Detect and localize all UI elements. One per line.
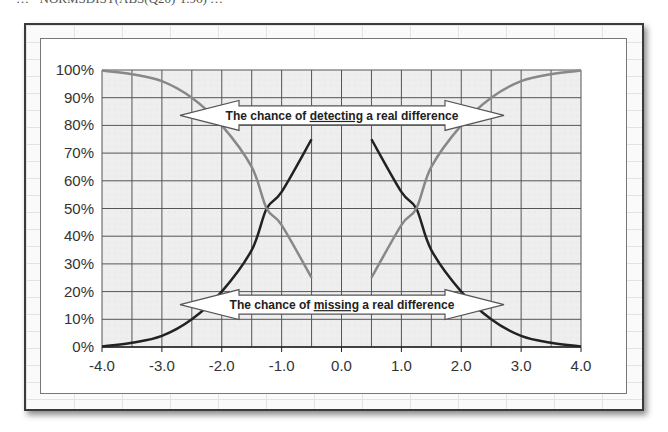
y-tick-label: 10% — [64, 310, 94, 327]
x-tick-label: 3.0 — [511, 357, 532, 374]
y-tick-label: 80% — [64, 116, 94, 133]
x-tick-label: -3.0 — [149, 357, 175, 374]
y-axis-labels: 0%10%20%30%40%50%60%70%80%90%100% — [56, 61, 94, 355]
y-tick-label: 20% — [64, 283, 94, 300]
annotation-text: The chance of detecting a real differenc… — [226, 109, 459, 123]
x-tick-label: 1.0 — [391, 357, 412, 374]
y-tick-label: 70% — [64, 144, 94, 161]
y-tick-label: 30% — [64, 255, 94, 272]
annotation-text: The chance of missing a real difference — [230, 298, 455, 312]
y-tick-label: 0% — [72, 338, 94, 355]
y-tick-label: 90% — [64, 89, 94, 106]
x-tick-label: 2.0 — [451, 357, 472, 374]
y-tick-label: 40% — [64, 227, 94, 244]
x-tick-label: -4.0 — [89, 357, 115, 374]
y-tick-label: 60% — [64, 172, 94, 189]
x-axis-labels: -4.0-3.0-2.0-1.00.01.02.03.04.0 — [89, 357, 591, 374]
power-curve-chart: 0%10%20%30%40%50%60%70%80%90%100% -4.0-3… — [0, 0, 668, 432]
y-tick-label: 50% — [64, 200, 94, 217]
x-tick-label: -2.0 — [209, 357, 235, 374]
y-tick-label: 100% — [56, 61, 94, 78]
x-tick-label: 0.0 — [331, 357, 352, 374]
x-tick-label: 4.0 — [571, 357, 592, 374]
x-tick-label: -1.0 — [269, 357, 295, 374]
